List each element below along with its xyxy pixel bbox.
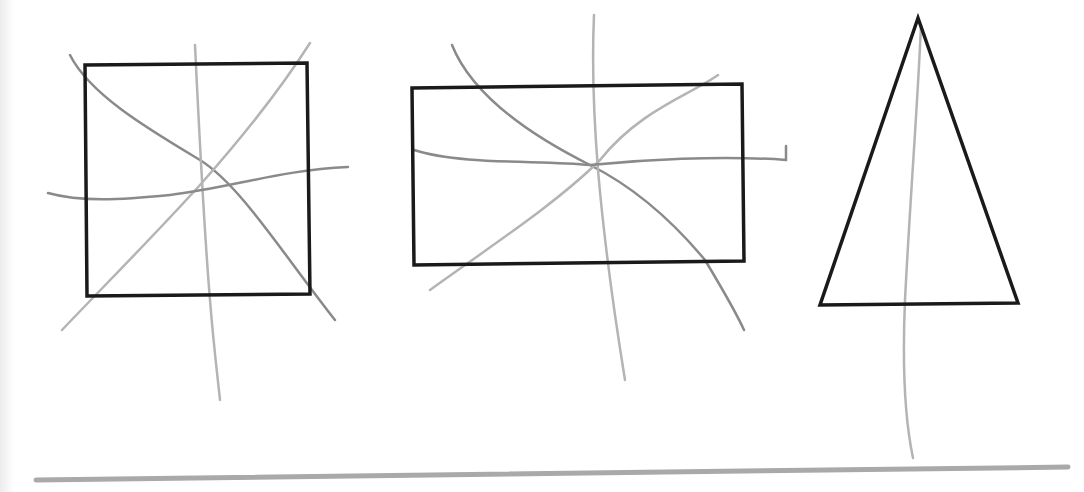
baseline-rule	[36, 467, 1068, 480]
rectangle-outline	[412, 84, 744, 265]
isosceles-triangle-symmetry-line-1	[904, 25, 921, 458]
rectangle-symmetry-line-3	[430, 75, 718, 290]
square-symmetry-line-4	[48, 167, 348, 199]
shapes-layer	[85, 18, 1018, 305]
symmetry-drawing-canvas	[0, 0, 1084, 492]
rectangle-symmetry-line-4	[414, 146, 786, 165]
rectangle-symmetry-line-2	[593, 15, 625, 380]
square-symmetry-line-3	[62, 43, 310, 330]
symmetry-lines-layer	[48, 15, 921, 458]
square-symmetry-line-2	[195, 45, 220, 400]
